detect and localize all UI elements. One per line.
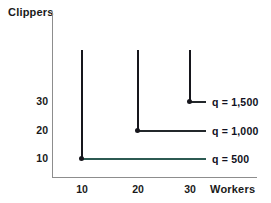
isoquant-1000-vertical-segment — [137, 50, 139, 131]
x-tick-label-20: 20 — [126, 183, 150, 195]
isoquant-chart: Clippers Workers 30 20 10 10 20 30 q = 5… — [0, 0, 271, 203]
isoquant-1000-corner-point — [135, 128, 140, 133]
isoquant-500-corner-point — [79, 156, 84, 161]
y-tick-label-30: 30 — [26, 95, 48, 107]
isoquant-1000-label: q = 1,000 — [212, 125, 258, 137]
isoquant-1000-horizontal-segment — [138, 130, 206, 132]
x-axis-title: Workers — [210, 183, 255, 195]
isoquant-500-vertical-segment — [81, 50, 83, 159]
x-tick-label-10: 10 — [70, 183, 94, 195]
x-axis-line — [52, 177, 257, 178]
y-tick-label-10: 10 — [26, 152, 48, 164]
isoquant-1500-horizontal-segment — [190, 101, 206, 103]
x-tick-label-30: 30 — [178, 183, 202, 195]
y-tick-label-20: 20 — [26, 124, 48, 136]
y-axis-line — [52, 12, 53, 178]
isoquant-1500-corner-point — [187, 99, 192, 104]
isoquant-500-horizontal-segment — [82, 158, 206, 160]
isoquant-1500-label: q = 1,500 — [212, 96, 258, 108]
isoquant-1500-vertical-segment — [189, 50, 191, 102]
y-axis-title: Clippers — [8, 6, 54, 18]
isoquant-500-label: q = 500 — [212, 153, 249, 165]
